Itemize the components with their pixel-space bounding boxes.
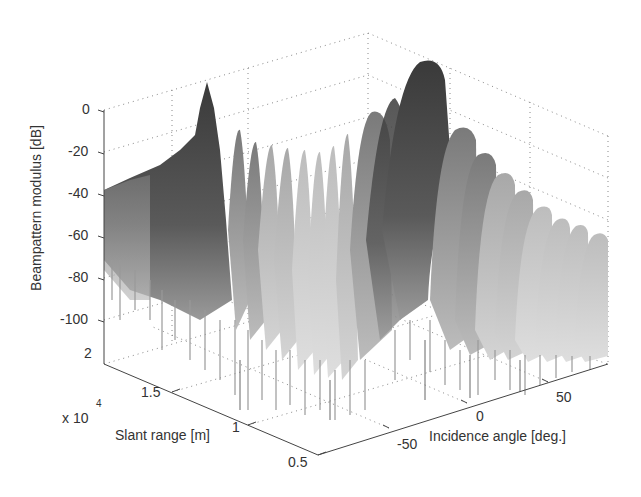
y-tick-label: 1 [232,419,240,435]
x-axis-label: Incidence angle [deg.] [429,428,566,444]
beampattern-3d-surface-plot [0,0,641,497]
z-tick-label: -60 [68,227,88,243]
y-axis-multiplier: x 10 [62,410,88,426]
z-tick-label: -80 [68,269,88,285]
y-axis-label: Slant range [m] [115,427,210,443]
z-tick-label: 0 [82,101,90,117]
z-tick-label: -40 [68,185,88,201]
x-tick-label: -50 [397,436,417,452]
z-axis-label: Beampattern modulus [dB] [28,108,44,308]
y-tick-label: 1.5 [141,384,160,400]
x-tick-label: 0 [476,408,484,424]
y-axis-multiplier-exponent: 4 [96,398,102,409]
y-tick-label: 0.5 [288,454,307,470]
y-tick-label: 2 [84,345,92,361]
z-tick-label: -20 [68,143,88,159]
x-tick-label: 50 [556,389,572,405]
z-tick-label: -100 [60,311,88,327]
surface-ridges [104,60,608,420]
